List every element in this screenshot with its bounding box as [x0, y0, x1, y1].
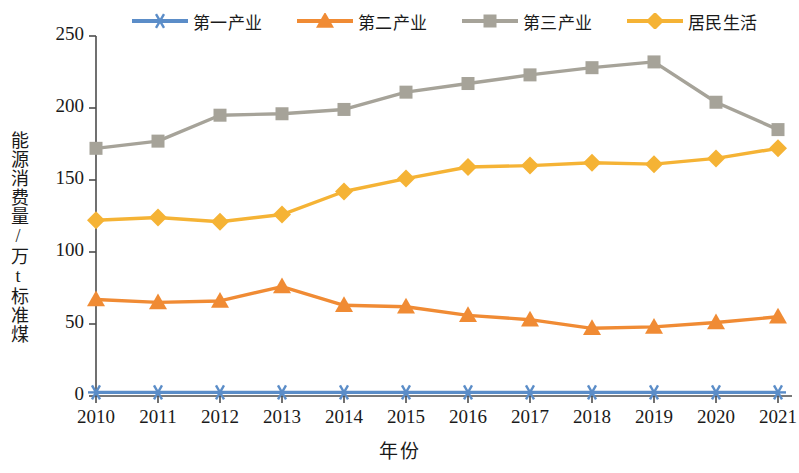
data-point-triangle-marker	[769, 308, 787, 324]
x-tick-label: 2016	[449, 406, 487, 428]
data-point-diamond-marker	[583, 154, 601, 172]
x-tick-label: 2011	[139, 406, 176, 428]
y-tick-label: 100	[34, 239, 84, 261]
x-tick-label: 2020	[697, 406, 735, 428]
x-tick-label: 2018	[573, 406, 611, 428]
data-point-diamond-marker	[397, 170, 415, 188]
series-3	[90, 55, 785, 154]
data-point-diamond-marker	[645, 155, 663, 173]
series-4	[87, 139, 787, 230]
data-point-diamond-marker	[707, 149, 725, 167]
line-chart: 第一产业第二产业第三产业居民生活 能源消费量/万t标准煤 年份 25020015…	[0, 0, 799, 473]
data-point-square-marker	[462, 77, 475, 90]
x-tick-label: 2015	[387, 406, 425, 428]
x-axis-title: 年份	[0, 436, 799, 463]
data-point-diamond-marker	[149, 208, 167, 226]
y-tick-label: 200	[34, 95, 84, 117]
y-tick-label: 150	[34, 167, 84, 189]
data-point-square-marker	[276, 107, 289, 120]
x-tick-label: 2021	[759, 406, 797, 428]
y-tick-label: 250	[34, 23, 84, 45]
data-point-diamond-marker	[521, 157, 539, 175]
plot-svg	[0, 0, 799, 473]
plot-area	[0, 0, 799, 473]
x-tick-label: 2017	[511, 406, 549, 428]
data-point-square-marker	[400, 86, 413, 99]
data-point-square-marker	[586, 61, 599, 74]
data-point-square-marker	[772, 123, 785, 136]
series-line	[96, 287, 778, 329]
y-tick-label: 0	[34, 383, 84, 405]
data-point-diamond-marker	[459, 158, 477, 176]
data-point-diamond-marker	[211, 213, 229, 231]
x-tick-label: 2012	[201, 406, 239, 428]
data-point-square-marker	[214, 109, 227, 122]
data-point-square-marker	[90, 142, 103, 155]
y-tick-label: 50	[34, 311, 84, 333]
x-tick-label: 2014	[325, 406, 363, 428]
series-1	[88, 385, 786, 399]
data-point-square-marker	[152, 135, 165, 148]
series-2	[87, 278, 787, 336]
data-point-diamond-marker	[335, 183, 353, 201]
data-point-diamond-marker	[769, 139, 787, 157]
x-tick-label: 2010	[77, 406, 115, 428]
data-point-triangle-marker	[273, 278, 291, 294]
x-tick-label: 2019	[635, 406, 673, 428]
series-line	[96, 148, 778, 221]
data-point-square-marker	[648, 55, 661, 68]
data-point-square-marker	[710, 96, 723, 109]
data-point-diamond-marker	[273, 206, 291, 224]
series-line	[96, 62, 778, 148]
data-point-square-marker	[338, 103, 351, 116]
data-point-diamond-marker	[87, 211, 105, 229]
x-tick-label: 2013	[263, 406, 301, 428]
data-point-square-marker	[524, 68, 537, 81]
